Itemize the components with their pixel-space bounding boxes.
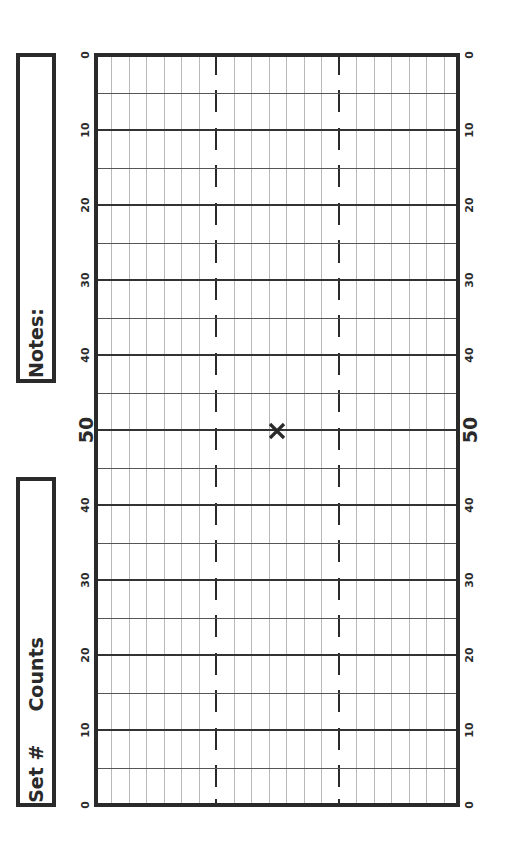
five-yard-line: [98, 768, 456, 769]
five-yard-line: [98, 543, 456, 544]
left-yard-label: 20: [78, 635, 94, 675]
yard-line: [98, 654, 456, 656]
right-yard-label: 20: [462, 635, 478, 675]
five-yard-line: [98, 393, 456, 394]
right-yard-label: 20: [462, 185, 478, 225]
five-yard-line: [98, 318, 456, 319]
notes-box[interactable]: Notes:: [16, 53, 56, 383]
yard-line: [98, 204, 456, 206]
yard-line: [98, 729, 456, 731]
left-yard-label: 50: [74, 410, 98, 450]
right-yard-label: 10: [462, 110, 478, 150]
left-yard-label: 20: [78, 185, 94, 225]
right-yard-label: 0: [462, 785, 478, 825]
left-yard-label: 0: [78, 35, 94, 75]
five-yard-line: [98, 93, 456, 94]
five-yard-line: [98, 243, 456, 244]
yard-line: [98, 129, 456, 131]
left-yard-label: 0: [78, 785, 94, 825]
set-counts-label: Set # Counts: [25, 637, 47, 803]
set-counts-box[interactable]: Set # Counts: [16, 477, 56, 807]
right-yard-label: 40: [462, 485, 478, 525]
five-yard-line: [98, 468, 456, 469]
yard-line: [98, 279, 456, 281]
five-yard-line: [98, 693, 456, 694]
right-yard-label: 0: [462, 35, 478, 75]
left-yard-label: 10: [78, 710, 94, 750]
five-yard-line: [98, 618, 456, 619]
right-yard-label: 10: [462, 710, 478, 750]
yard-line: [98, 354, 456, 356]
right-yard-label: 30: [462, 560, 478, 600]
left-yard-label: 40: [78, 335, 94, 375]
left-yard-label: 10: [78, 110, 94, 150]
left-yard-label: 30: [78, 560, 94, 600]
left-yard-label: 40: [78, 485, 94, 525]
right-yard-label: 30: [462, 260, 478, 300]
right-yard-label: 40: [462, 335, 478, 375]
yard-line: [98, 504, 456, 506]
five-yard-line: [98, 168, 456, 169]
center-x-mark-icon: [266, 420, 288, 442]
right-yard-label: 50: [458, 410, 482, 450]
notes-label: Notes:: [25, 308, 47, 378]
yard-line: [98, 579, 456, 581]
left-yard-label: 30: [78, 260, 94, 300]
